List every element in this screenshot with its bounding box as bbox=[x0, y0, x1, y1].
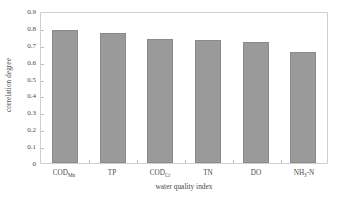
y-axis-tick-label: 0.4 bbox=[27, 92, 36, 100]
x-axis-tick-mark bbox=[281, 160, 282, 163]
y-axis-tick-label: 0.2 bbox=[27, 126, 36, 134]
plot-inner bbox=[41, 13, 327, 163]
bar bbox=[195, 40, 221, 163]
y-axis-tick-labels: 00.10.20.30.40.50.60.70.80.9 bbox=[16, 12, 38, 164]
plot-area bbox=[40, 12, 328, 164]
y-axis-tick-mark bbox=[41, 47, 44, 48]
bar bbox=[147, 39, 173, 163]
y-axis-tick-mark bbox=[41, 148, 44, 149]
x-axis-tick-label: CODMn bbox=[40, 168, 88, 182]
bar-slot bbox=[279, 13, 327, 163]
bar-chart-figure: correlation degree 00.10.20.30.40.50.60.… bbox=[0, 0, 340, 211]
y-axis-tick-label: 0.6 bbox=[27, 59, 36, 67]
bar-slot bbox=[232, 13, 280, 163]
bar bbox=[100, 33, 126, 163]
x-axis-tick-label: DO bbox=[232, 168, 280, 182]
bar bbox=[52, 30, 78, 163]
x-axis-tick-label: TP bbox=[88, 168, 136, 182]
x-axis-tick-label: CODCr bbox=[136, 168, 184, 182]
y-axis-title: correlation degree bbox=[2, 0, 16, 170]
y-axis-tick-mark bbox=[41, 97, 44, 98]
x-axis-tick-label: TN bbox=[184, 168, 232, 182]
bar-series bbox=[41, 13, 327, 163]
bar-slot bbox=[136, 13, 184, 163]
x-axis-tick-labels: CODMnTPCODCrTNDONH3-N bbox=[40, 168, 328, 182]
y-axis-tick-mark bbox=[41, 81, 44, 82]
x-axis-tick-mark bbox=[233, 160, 234, 163]
bar-slot bbox=[89, 13, 137, 163]
y-axis-tick-label: 0.7 bbox=[27, 42, 36, 50]
x-axis-tick-label: NH3-N bbox=[280, 168, 328, 182]
x-axis-tick-mark bbox=[89, 160, 90, 163]
y-axis-tick-label: 0.5 bbox=[27, 76, 36, 84]
y-axis-tick-label: 0.3 bbox=[27, 109, 36, 117]
y-axis-tick-mark bbox=[41, 114, 44, 115]
y-axis-tick-label: 0 bbox=[33, 160, 37, 168]
bar-slot bbox=[184, 13, 232, 163]
y-axis-tick-mark bbox=[41, 131, 44, 132]
x-axis-tick-mark bbox=[185, 160, 186, 163]
x-axis-tick-mark bbox=[137, 160, 138, 163]
y-axis-tick-label: 0.9 bbox=[27, 8, 36, 16]
y-axis-title-text: correlation degree bbox=[5, 58, 13, 112]
bar-slot bbox=[41, 13, 89, 163]
y-axis-tick-label: 0.1 bbox=[27, 143, 36, 151]
y-axis-tick-label: 0.8 bbox=[27, 25, 36, 33]
bar bbox=[290, 52, 316, 163]
y-axis-tick-mark bbox=[41, 64, 44, 65]
bar bbox=[243, 42, 269, 163]
y-axis-tick-mark bbox=[41, 30, 44, 31]
x-axis-title: water quality index bbox=[40, 182, 328, 191]
